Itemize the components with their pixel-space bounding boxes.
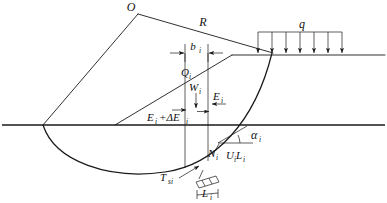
reinforcement-leader [199,170,203,179]
label-interslice-E: E i [212,90,223,105]
label-center-O: O [127,0,136,14]
label-length-L: L i [201,187,212,202]
label-W-main: W [189,81,199,93]
label-UL-L-sub: i [243,155,245,164]
label-E-main: E [212,90,220,102]
label-N-main: N [207,147,216,159]
label-E-sub: i [221,96,223,105]
label-Lbottom-sub: i [210,193,212,202]
label-slice-width-b: b i [190,40,201,55]
label-T-sub: si [168,177,173,186]
label-Q-main: Q [181,66,189,78]
surcharge-load-group [258,32,342,53]
radius-line-left [43,14,138,125]
label-surcharge-q: q [299,17,305,31]
label-b-sub: i [199,46,201,55]
label-UL-L-main: L [235,149,242,161]
label-Esum-delta-sub: i [186,117,188,126]
label-W-sub: i [199,87,201,96]
alpha-tangent-reference [218,126,247,143]
slope-stability-figure: O R q b i Q i W i E i E i +ΔE i [0,0,387,203]
label-tension-T: T si [160,171,173,186]
alpha-angle-arc [238,135,240,143]
label-T-main: T [160,171,167,183]
label-Esum-sub: i [155,117,157,126]
label-Q-sub: i [189,72,191,81]
label-interslice-sum: E i +ΔE i [146,111,188,126]
label-Esum-delta: +ΔE [159,111,180,123]
reinforcement-element [196,170,219,188]
label-pore-pressure-UL: U i L i [226,149,245,164]
label-alpha-main: α [251,128,258,142]
label-weight-W: W i [189,81,201,96]
label-shear-Q: Q i [181,66,191,81]
label-alpha-sub: i [259,135,261,144]
label-b-main: b [190,40,196,52]
diagram-canvas: O R q b i Q i W i E i E i +ΔE i [0,0,387,203]
label-alpha: α i [251,128,261,144]
label-radius-R: R [198,15,207,29]
label-Esum-main: E [146,111,154,123]
label-Lbottom-main: L [201,187,208,199]
label-N-sub: i [216,153,218,162]
